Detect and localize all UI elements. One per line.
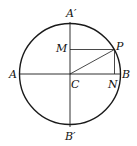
- label-B: B: [121, 68, 130, 81]
- label-P: P: [115, 40, 124, 53]
- circle-diagram: A′ A B B′ M P C N: [0, 0, 137, 146]
- label-B-prime: B′: [64, 130, 76, 143]
- label-N: N: [107, 78, 118, 91]
- label-A: A: [8, 68, 17, 81]
- label-A-prime: A′: [65, 7, 77, 20]
- label-C: C: [71, 78, 80, 91]
- radius-CP: [70, 50, 115, 75]
- label-M: M: [55, 42, 68, 55]
